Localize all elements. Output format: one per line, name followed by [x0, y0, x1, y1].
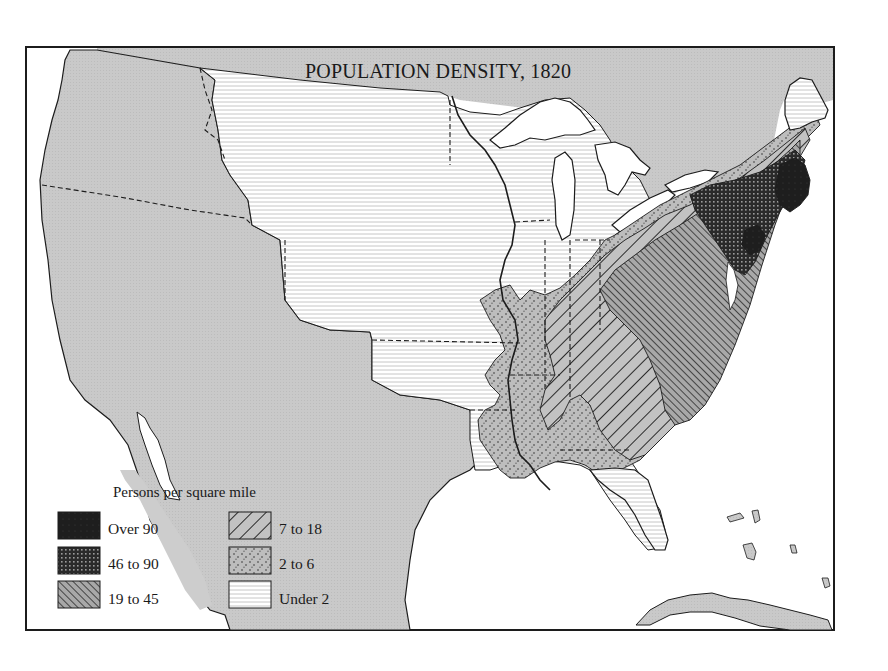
legend-label-19-to-45: 19 to 45 [108, 590, 159, 608]
legend-swatch-7-to-18 [229, 512, 271, 539]
legend-label-under-2: Under 2 [279, 590, 329, 608]
legend-label-2-to-6: 2 to 6 [279, 555, 314, 573]
legend-swatch-over-90 [58, 512, 100, 539]
legend-label-over-90: Over 90 [108, 520, 158, 538]
legend-label-46-to-90: 46 to 90 [108, 555, 159, 573]
legend-swatch-2-to-6 [229, 547, 271, 574]
map-title: POPULATION DENSITY, 1820 [305, 60, 571, 83]
legend-swatch-under-2 [229, 581, 271, 608]
legend-title: Persons per square mile [113, 484, 256, 501]
legend-label-7-to-18: 7 to 18 [279, 520, 322, 538]
legend-swatch-46-to-90 [58, 547, 100, 574]
legend-swatch-19-to-45 [58, 581, 100, 608]
